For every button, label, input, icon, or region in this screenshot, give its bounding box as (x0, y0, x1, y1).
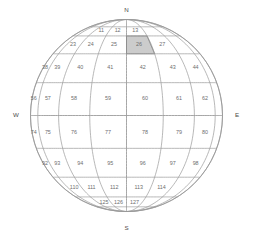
globe-diagram: 1112132324252627383940414243445657585960… (0, 0, 253, 241)
cell-label-95: 95 (107, 160, 113, 166)
cell-label-60: 60 (142, 95, 148, 101)
cell-label-42: 42 (140, 64, 146, 70)
cell-label-12: 12 (115, 27, 121, 33)
cell-label-57: 57 (45, 95, 51, 101)
cell-label-61: 61 (176, 95, 182, 101)
cell-label-76: 76 (71, 129, 77, 135)
cell-label-75: 75 (45, 129, 51, 135)
cell-label-59: 59 (105, 95, 111, 101)
cell-label-39: 39 (54, 64, 60, 70)
cell-label-41: 41 (107, 64, 113, 70)
cell-label-23: 23 (70, 41, 76, 47)
cell-label-13: 13 (132, 27, 138, 33)
cell-label-25: 25 (111, 41, 117, 47)
cell-label-62: 62 (202, 95, 208, 101)
globe-figure: 1112132324252627383940414243445657585960… (0, 0, 253, 241)
cell-label-126: 126 (114, 199, 123, 205)
cell-label-58: 58 (71, 95, 77, 101)
cell-label-111: 111 (87, 184, 95, 190)
cell-label-93: 93 (54, 160, 60, 166)
cell-label-26: 26 (136, 41, 142, 47)
cell-label-11: 11 (98, 27, 104, 33)
cardinal-label-south: S (124, 224, 128, 231)
cell-label-96: 96 (140, 160, 146, 166)
cell-label-94: 94 (77, 160, 83, 166)
cell-label-92: 92 (42, 160, 48, 166)
cell-label-114: 114 (157, 184, 166, 190)
cell-label-112: 112 (110, 184, 119, 190)
cell-label-80: 80 (202, 129, 208, 135)
cell-label-27: 27 (159, 41, 165, 47)
cell-label-77: 77 (105, 129, 111, 135)
cell-label-98: 98 (193, 160, 199, 166)
cardinal-label-west: W (13, 111, 19, 118)
cell-label-113: 113 (134, 184, 143, 190)
cell-label-38: 38 (42, 64, 48, 70)
cell-label-79: 79 (176, 129, 182, 135)
cardinal-label-north: N (124, 6, 128, 13)
cell-label-127: 127 (130, 199, 139, 205)
cell-label-40: 40 (77, 64, 83, 70)
cardinal-label-east: E (235, 111, 239, 118)
cell-label-110: 110 (70, 184, 79, 190)
cell-label-97: 97 (170, 160, 176, 166)
cell-label-43: 43 (170, 64, 176, 70)
cell-label-56: 56 (31, 95, 37, 101)
cell-label-44: 44 (193, 64, 199, 70)
cell-label-125: 125 (99, 199, 108, 205)
cell-label-74: 74 (31, 129, 37, 135)
cell-label-24: 24 (88, 41, 94, 47)
cell-label-78: 78 (142, 129, 148, 135)
